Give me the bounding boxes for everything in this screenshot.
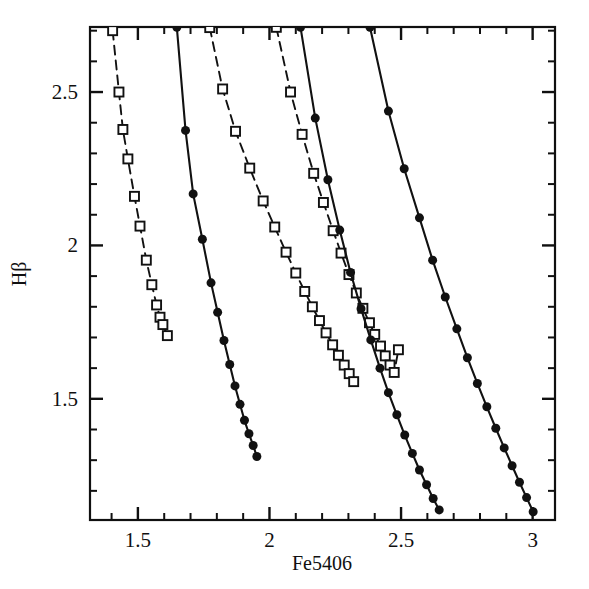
open-square-marker (319, 198, 328, 207)
filled-circle-marker (213, 308, 222, 317)
y-tick-label: 1.5 (52, 387, 78, 411)
open-square-marker (376, 342, 385, 351)
filled-circle-marker (415, 213, 424, 222)
filled-circle-marker (335, 226, 344, 235)
open-square-marker (259, 196, 268, 205)
open-square-marker (231, 127, 240, 136)
open-square-marker (300, 287, 309, 296)
open-square-marker (390, 368, 399, 377)
open-square-marker (328, 340, 337, 349)
filled-circle-marker (400, 431, 409, 440)
filled-circle-marker (323, 175, 332, 184)
open-square-marker (123, 154, 132, 163)
x-tick-label: 2.5 (388, 528, 414, 552)
open-square-marker (309, 169, 318, 178)
scatter-line-plot: 1.522.531.522.5Fe5406Hβ (0, 0, 589, 589)
open-square-marker (130, 192, 139, 201)
filled-circle-marker (441, 292, 450, 301)
open-square-marker (118, 125, 127, 134)
filled-circle-marker (219, 336, 228, 345)
x-tick-label: 2 (264, 528, 275, 552)
filled-circle-marker (244, 429, 253, 438)
filled-circle-marker (392, 410, 401, 419)
open-square-marker (218, 84, 227, 93)
filled-circle-marker (384, 388, 393, 397)
open-square-marker (282, 248, 291, 257)
filled-circle-marker (491, 424, 500, 433)
filled-circle-marker (240, 416, 249, 425)
filled-circle-marker (400, 164, 409, 173)
filled-circle-marker (384, 107, 393, 116)
filled-circle-marker (422, 480, 431, 489)
filled-circle-marker (252, 452, 261, 461)
open-square-marker (163, 331, 172, 340)
filled-circle-marker (311, 114, 320, 123)
open-square-marker (136, 222, 145, 231)
filled-circle-marker (508, 461, 517, 470)
open-square-marker (245, 164, 254, 173)
filled-circle-marker (189, 189, 198, 198)
filled-circle-marker (366, 335, 375, 344)
filled-circle-marker (357, 304, 366, 313)
open-square-marker (270, 223, 279, 232)
open-square-marker (334, 351, 343, 360)
open-square-marker (147, 280, 156, 289)
filled-circle-marker (452, 324, 461, 333)
filled-circle-marker (236, 400, 245, 409)
filled-circle-marker (346, 268, 355, 277)
open-square-marker (291, 269, 300, 278)
filled-circle-marker (181, 126, 190, 135)
filled-circle-marker (249, 441, 258, 450)
open-square-marker (298, 130, 307, 139)
filled-circle-marker (515, 478, 524, 487)
y-tick-label: 2 (68, 233, 79, 257)
open-square-marker (381, 351, 390, 360)
open-square-marker (322, 328, 331, 337)
filled-circle-marker (463, 353, 472, 362)
filled-circle-marker (435, 505, 444, 514)
open-square-marker (286, 88, 295, 97)
filled-circle-marker (198, 235, 207, 244)
open-square-marker (315, 316, 324, 325)
filled-circle-marker (429, 494, 438, 503)
y-axis-title: Hβ (8, 262, 31, 287)
filled-circle-marker (376, 364, 385, 373)
x-axis-title: Fe5406 (292, 552, 352, 574)
filled-circle-marker (231, 381, 240, 390)
open-square-marker (158, 320, 167, 329)
filled-circle-marker (408, 449, 417, 458)
filled-circle-marker (529, 507, 538, 516)
filled-circle-marker (428, 256, 437, 265)
y-tick-label: 2.5 (52, 80, 78, 104)
x-tick-label: 1.5 (125, 528, 151, 552)
x-tick-label: 3 (527, 528, 538, 552)
filled-circle-marker (207, 278, 216, 287)
filled-circle-marker (522, 493, 531, 502)
open-square-marker (108, 26, 117, 35)
open-square-marker (394, 345, 403, 354)
open-square-marker (349, 377, 358, 386)
filled-circle-marker (500, 443, 509, 452)
filled-circle-marker (473, 379, 482, 388)
filled-circle-marker (225, 360, 234, 369)
filled-circle-marker (415, 465, 424, 474)
figure-container: 1.522.531.522.5Fe5406Hβ (0, 0, 589, 589)
open-square-marker (152, 300, 161, 309)
open-square-marker (142, 256, 151, 265)
open-square-marker (308, 302, 317, 311)
filled-circle-marker (482, 402, 491, 411)
open-square-marker (114, 88, 123, 97)
